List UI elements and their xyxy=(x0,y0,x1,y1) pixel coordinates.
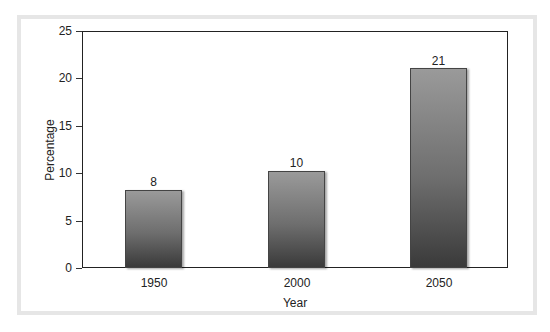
x-tick-label: 2000 xyxy=(267,276,327,290)
y-tick-10 xyxy=(76,173,82,174)
x-tick-label: 1950 xyxy=(124,276,184,290)
y-tick-label: 5 xyxy=(42,215,72,227)
x-tick-label: 2050 xyxy=(409,276,469,290)
y-tick-5 xyxy=(76,221,82,222)
bar-value-label: 10 xyxy=(268,157,325,169)
y-tick-label: 0 xyxy=(42,262,72,274)
bar-2000 xyxy=(268,171,325,268)
bar-1950 xyxy=(125,190,182,268)
y-tick-label: 25 xyxy=(42,25,72,37)
y-tick-0 xyxy=(76,268,82,269)
bar-value-label: 8 xyxy=(125,176,182,188)
y-tick-label: 20 xyxy=(42,72,72,84)
bar-2050 xyxy=(410,68,467,268)
y-tick-25 xyxy=(76,31,82,32)
y-tick-20 xyxy=(76,78,82,79)
y-axis-label: Percentage xyxy=(43,110,57,190)
x-axis-label: Year xyxy=(265,296,325,310)
bar-value-label: 21 xyxy=(410,55,467,67)
y-tick-15 xyxy=(76,126,82,127)
